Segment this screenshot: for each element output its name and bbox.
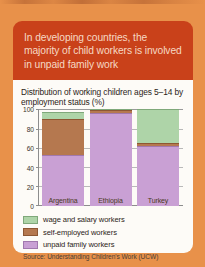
bar-category-label: Turkey xyxy=(137,197,179,204)
bar-turkey[interactable]: Turkey xyxy=(137,109,179,206)
bar-segment xyxy=(90,113,132,206)
bar-argentina[interactable]: Argentina xyxy=(42,109,84,206)
source-note: Source: Understanding Children's Work (U… xyxy=(23,253,185,260)
y-axis-tick-label: 40 xyxy=(27,164,34,171)
bar-segment xyxy=(42,112,84,119)
y-axis-tick-label: 100 xyxy=(23,106,34,113)
bar-category-label: Ethiopia xyxy=(90,197,132,204)
chart-legend: wage and salary workersself-employed wor… xyxy=(23,214,185,250)
callout-text: In developing countries, the majority of… xyxy=(24,31,182,71)
legend-label: unpaid family workers xyxy=(43,240,114,249)
bar-segment xyxy=(137,109,179,143)
infographic-figure: In developing countries, the majority of… xyxy=(13,21,193,253)
legend-item[interactable]: wage and salary workers xyxy=(23,214,185,225)
legend-swatch-green xyxy=(23,216,38,224)
bar-segment xyxy=(42,119,84,155)
legend-swatch-purple xyxy=(23,241,38,249)
bar-category-label: Argentina xyxy=(42,197,84,204)
callout-banner: In developing countries, the majority of… xyxy=(13,21,193,80)
bar-ethiopia[interactable]: Ethiopia xyxy=(90,109,132,206)
y-axis-tick-label: 0 xyxy=(30,203,34,210)
legend-label: self-employed workers xyxy=(43,228,117,237)
bar-group: ArgentinaEthiopiaTurkey xyxy=(38,109,183,206)
scan-bleed-strip xyxy=(0,0,205,4)
chart-title: Distribution of working children ages 5–… xyxy=(21,87,185,107)
y-axis-tick-label: 80 xyxy=(27,125,34,132)
plot-wrapper: 100806040200 ArgentinaEthiopiaTurkey xyxy=(38,109,183,206)
y-axis-tick-label: 20 xyxy=(27,184,34,191)
chart-panel: Distribution of working children ages 5–… xyxy=(13,80,193,253)
legend-label: wage and salary workers xyxy=(43,215,125,224)
y-axis-tick-label: 60 xyxy=(27,145,34,152)
legend-item[interactable]: self-employed workers xyxy=(23,227,185,238)
legend-swatch-brown xyxy=(23,228,38,236)
legend-item[interactable]: unpaid family workers xyxy=(23,239,185,250)
